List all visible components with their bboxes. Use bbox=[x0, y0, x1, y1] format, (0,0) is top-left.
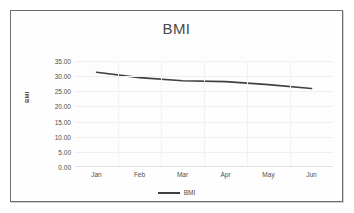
y-axis-tick-label: 0.00 bbox=[37, 164, 71, 171]
y-axis-tick-label: 15.00 bbox=[37, 118, 71, 125]
y-axis-title: BMI bbox=[24, 91, 30, 103]
chart-legend: BMI bbox=[11, 189, 342, 196]
gridline-vertical bbox=[161, 61, 162, 167]
y-axis-tick-label: 35.00 bbox=[37, 58, 71, 65]
y-axis-tick-label: 25.00 bbox=[37, 88, 71, 95]
y-axis-tick-label: 5.00 bbox=[37, 148, 71, 155]
x-axis-line bbox=[75, 166, 333, 167]
x-axis-tick-label: May bbox=[262, 171, 274, 178]
legend-line-marker-icon bbox=[158, 192, 180, 194]
x-axis-tick-label: Mar bbox=[177, 171, 188, 178]
x-axis-tick-label: Jan bbox=[91, 171, 101, 178]
gridline-vertical bbox=[247, 61, 248, 167]
legend-label-bmi: BMI bbox=[184, 189, 196, 196]
x-axis-tick-label: Apr bbox=[220, 171, 230, 178]
gridline-vertical bbox=[204, 61, 205, 167]
x-axis-tick-labels: JanFebMarAprMayJun bbox=[75, 171, 333, 183]
plot-inner bbox=[75, 61, 333, 167]
y-axis-tick-label: 10.00 bbox=[37, 133, 71, 140]
y-axis-tick-labels: 35.0030.0025.0020.0015.0010.005.000.00 bbox=[35, 61, 71, 167]
chart-title: BMI bbox=[11, 20, 342, 37]
x-axis-tick-label: Feb bbox=[134, 171, 145, 178]
plot-area bbox=[75, 51, 333, 167]
gridline-vertical bbox=[118, 61, 119, 167]
chart-frame: BMI BMI 35.0030.0025.0020.0015.0010.005.… bbox=[10, 10, 343, 202]
gridline-vertical bbox=[290, 61, 291, 167]
x-axis-tick-label: Jun bbox=[306, 171, 316, 178]
y-axis-tick-label: 20.00 bbox=[37, 103, 71, 110]
y-axis-tick-label: 30.00 bbox=[37, 73, 71, 80]
